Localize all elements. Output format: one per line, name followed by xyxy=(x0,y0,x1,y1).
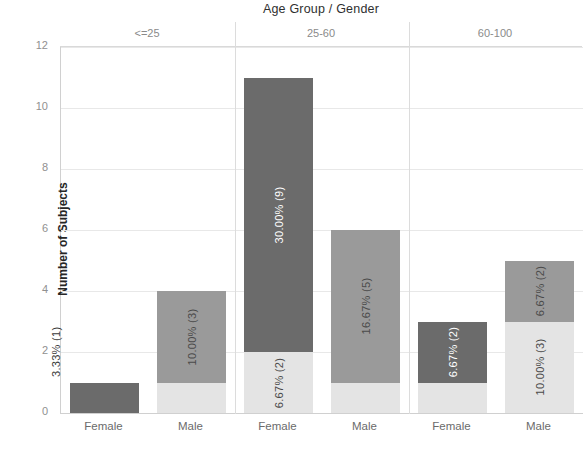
bar-2560-male[interactable]: 16.67% (5) xyxy=(331,230,400,413)
bar-value-label: 10.00% (3) xyxy=(186,308,198,365)
bar-value-label: 6.67% (2) xyxy=(447,327,459,377)
gridline xyxy=(61,230,583,231)
bar-60100-female[interactable]: 6.67% (2) xyxy=(418,322,487,414)
y-tick-label: 12 xyxy=(0,39,48,51)
bar-value-label-outside: 3.33% (1) xyxy=(50,326,62,376)
gridline xyxy=(61,413,583,414)
group-divider xyxy=(235,22,236,414)
gridline xyxy=(61,108,583,109)
y-tick-label: 0 xyxy=(0,405,48,417)
group-header-band: <=2525-6060-100 xyxy=(60,22,582,47)
bar-segment-bottom[interactable] xyxy=(418,383,487,414)
bar-segment-top[interactable] xyxy=(70,383,139,414)
y-tick-label: 4 xyxy=(0,283,48,295)
bar-value-label: 6.67% (2) xyxy=(534,266,546,316)
group-header-3: 60-100 xyxy=(408,22,582,47)
x-axis-label-female: Female xyxy=(234,420,321,432)
bar-segment-top[interactable]: 6.67% (2) xyxy=(505,261,574,322)
y-tick-label: 10 xyxy=(0,100,48,112)
bar-value-label: 16.67% (5) xyxy=(360,278,372,335)
gridline xyxy=(61,169,583,170)
y-tick-label: 2 xyxy=(0,344,48,356)
bar-segment-bottom[interactable]: 10.00% (3) xyxy=(505,322,574,414)
bar-segment-bottom[interactable]: 6.67% (2) xyxy=(244,352,313,413)
group-header-1: <=25 xyxy=(60,22,234,47)
bar-segment-top[interactable]: 10.00% (3) xyxy=(157,291,226,383)
x-axis-label-female: Female xyxy=(60,420,147,432)
chart-title: Age Group / Gender xyxy=(60,2,582,16)
y-axis-title: Number of Subjects xyxy=(56,0,70,475)
bar-value-label: 30.00% (9) xyxy=(273,186,285,243)
bar-60100-male[interactable]: 10.00% (3)6.67% (2) xyxy=(505,261,574,414)
bar-segment-bottom[interactable] xyxy=(331,383,400,414)
bar-segment-top[interactable]: 30.00% (9) xyxy=(244,78,313,353)
x-axis-label-male: Male xyxy=(321,420,408,432)
gridline xyxy=(61,47,583,48)
x-axis-label-male: Male xyxy=(147,420,234,432)
group-divider xyxy=(409,22,410,414)
chart-container: Age Group / Gender <=2525-6060-100 Numbe… xyxy=(0,0,586,475)
bar-segment-top[interactable]: 6.67% (2) xyxy=(418,322,487,383)
bar-value-label: 10.00% (3) xyxy=(534,339,546,396)
bar-segment-top[interactable]: 16.67% (5) xyxy=(331,230,400,383)
y-tick-label: 6 xyxy=(0,222,48,234)
x-axis-label-male: Male xyxy=(495,420,582,432)
bar-segment-bottom[interactable] xyxy=(157,383,226,414)
bar-25-female[interactable] xyxy=(70,383,139,414)
bar-2560-female[interactable]: 6.67% (2)30.00% (9) xyxy=(244,78,313,414)
group-header-2: 25-60 xyxy=(234,22,408,47)
plot-area: Number of Subjects 10.00% (3)6.67% (2)30… xyxy=(60,47,582,414)
bar-value-label: 6.67% (2) xyxy=(273,357,285,407)
y-tick-label: 8 xyxy=(0,161,48,173)
x-axis-label-female: Female xyxy=(408,420,495,432)
bar-25-male[interactable]: 10.00% (3) xyxy=(157,291,226,413)
